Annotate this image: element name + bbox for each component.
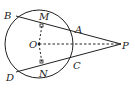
label-c: C — [73, 60, 81, 71]
segment-om-dashed — [39, 25, 42, 44]
label-p: P — [121, 40, 129, 51]
diagram-canvas: B M A O P C N D — [0, 0, 135, 92]
label-a: A — [74, 24, 82, 35]
label-d: D — [5, 72, 14, 83]
label-o: O — [29, 39, 37, 50]
label-b: B — [3, 10, 11, 21]
label-n: N — [38, 68, 49, 79]
label-m: M — [38, 11, 50, 22]
center-dot-o — [38, 43, 41, 46]
geometry-diagram: B M A O P C N D — [0, 0, 135, 92]
